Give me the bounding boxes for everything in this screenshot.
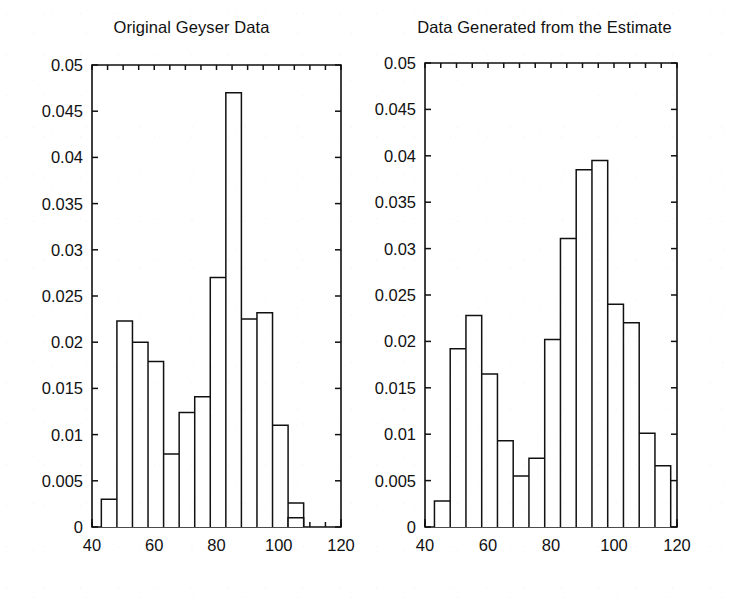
histogram-plot-left: 00.0050.010.0150.020.0250.030.0350.040.0… xyxy=(0,0,367,600)
y-tick-label: 0 xyxy=(74,518,83,536)
y-tick-label: 0.035 xyxy=(375,193,416,211)
y-tick-label: 0 xyxy=(407,518,416,536)
histogram-bars xyxy=(101,93,303,527)
y-tick-label: 0.005 xyxy=(375,472,416,490)
y-tick-label: 0.015 xyxy=(42,379,83,397)
y-tick-label: 0.03 xyxy=(384,240,416,258)
y-tick-label: 0.02 xyxy=(384,332,416,350)
x-tick-label: 60 xyxy=(479,536,497,554)
histogram-tail-bar xyxy=(288,518,304,527)
y-tick-label: 0.04 xyxy=(51,148,83,166)
y-tick-label: 0.015 xyxy=(375,379,416,397)
histogram-plot-right: 00.0050.010.0150.020.0250.030.0350.040.0… xyxy=(367,0,734,600)
y-tick-label: 0.005 xyxy=(42,472,83,490)
y-tick-label: 0.025 xyxy=(42,287,83,305)
x-tick-label: 80 xyxy=(542,536,560,554)
y-tick-label: 0.025 xyxy=(375,286,416,304)
x-tick-label: 100 xyxy=(265,536,293,554)
y-tick-label: 0.02 xyxy=(51,333,83,351)
y-tick-label: 0.04 xyxy=(384,147,416,165)
histogram-bars xyxy=(434,160,670,527)
x-tick-label: 120 xyxy=(327,536,355,554)
y-tick-label: 0.03 xyxy=(51,241,83,259)
y-tick-label: 0.01 xyxy=(51,426,83,444)
y-tick-label: 0.045 xyxy=(42,102,83,120)
x-tick-label: 80 xyxy=(207,536,225,554)
y-tick-label: 0.045 xyxy=(375,100,416,118)
x-tick-label: 40 xyxy=(416,536,434,554)
x-tick-label: 60 xyxy=(145,536,163,554)
y-tick-label: 0.05 xyxy=(51,56,83,74)
chart-panel-right: Data Generated from the Estimate 00.0050… xyxy=(367,0,734,600)
y-tick-label: 0.01 xyxy=(384,425,416,443)
y-tick-label: 0.035 xyxy=(42,195,83,213)
x-tick-label: 100 xyxy=(600,536,628,554)
y-tick-label: 0.05 xyxy=(384,54,416,72)
figure-canvas: Original Geyser Data 00.0050.010.0150.02… xyxy=(0,0,734,600)
chart-panel-left: Original Geyser Data 00.0050.010.0150.02… xyxy=(0,0,367,600)
x-tick-label: 40 xyxy=(83,536,101,554)
x-tick-label: 120 xyxy=(663,536,691,554)
